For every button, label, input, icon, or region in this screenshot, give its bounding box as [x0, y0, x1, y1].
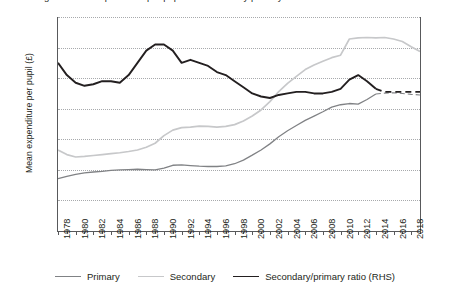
chart-title-text: Figure: Mean expenditure per pupil and s…: [36, 0, 304, 2]
x-axis-tick: [58, 231, 59, 235]
x-axis-tick: [323, 231, 324, 235]
x-axis-tick: [111, 231, 112, 235]
x-axis-tick: [164, 231, 165, 235]
legend-item[interactable]: Secondary: [138, 271, 215, 282]
x-axis-tick: [76, 231, 77, 235]
x-axis-tick: [394, 231, 395, 235]
x-axis-tick: [182, 231, 183, 235]
x-axis-tick: [146, 231, 147, 235]
x-axis-tick: [199, 231, 200, 235]
series-line: [376, 89, 420, 92]
x-axis-tick: [411, 231, 412, 235]
legend-label: Primary: [87, 271, 120, 282]
y-axis-left-title: Mean expenditure per pupil (£): [24, 33, 34, 193]
y-axis-right-line: [420, 17, 421, 231]
x-axis-tick: [235, 231, 236, 235]
x-axis-tick: [341, 231, 342, 235]
legend-swatch-icon: [233, 276, 259, 277]
series-lines: [58, 17, 420, 231]
legend-swatch-icon: [138, 276, 164, 277]
plot-area: 01,0002,0003,0004,0005,0006,0007,000 0.4…: [58, 17, 420, 231]
legend-item[interactable]: Secondary/primary ratio (RHS): [233, 271, 395, 282]
legend-swatch-icon: [55, 276, 81, 277]
series-line: [58, 45, 376, 99]
x-axis-tick: [270, 231, 271, 235]
x-axis-tick: [305, 231, 306, 235]
x-axis-tick: [217, 231, 218, 235]
x-axis-tick: [129, 231, 130, 235]
x-axis-tick: [288, 231, 289, 235]
chart-title-clipped: Figure: Mean expenditure per pupil and s…: [0, 0, 450, 7]
series-line: [58, 37, 420, 157]
x-axis-tick: [252, 231, 253, 235]
series-line: [58, 94, 376, 179]
legend-item[interactable]: Primary: [55, 271, 120, 282]
legend-label: Secondary/primary ratio (RHS): [265, 271, 395, 282]
series-line: [376, 93, 420, 95]
x-axis-tick: [376, 231, 377, 235]
x-axis-tick: [93, 231, 94, 235]
chart-legend: PrimarySecondarySecondary/primary ratio …: [0, 268, 450, 284]
chart-figure: Figure: Mean expenditure per pupil and s…: [0, 0, 450, 290]
x-axis-tick: [358, 231, 359, 235]
legend-label: Secondary: [170, 271, 215, 282]
